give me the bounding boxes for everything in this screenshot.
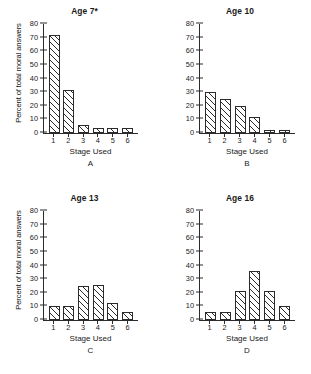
x-tick-label-2: 2 [219,136,230,145]
y-tick-label: 10 [30,300,38,311]
y-tick-label: 60 [30,45,38,56]
x-tick-label-6: 6 [122,136,133,145]
panel-d-x-tick-labels: 123456 [199,323,295,332]
panel-a-x-axis-title: Stage Used [43,147,138,156]
x-tick-label-6: 6 [122,323,133,332]
bar-slot [235,211,246,320]
panel-b-label: B [199,159,295,168]
panel-a: Age 7* Percent of total moral answers 01… [0,0,155,187]
x-tick-label-2: 2 [219,323,230,332]
panel-a-plot-area: 01020304050607080 [43,24,138,134]
bar-stage-2 [220,99,231,133]
y-tick-label: 70 [30,31,38,42]
x-tick-label-1: 1 [204,136,215,145]
bar-slot [49,211,60,320]
panel-d-x-axis-title: Stage Used [199,334,295,343]
panel-a-bars [44,24,138,133]
panel-d-label: D [199,346,295,355]
panel-d-bars [200,211,295,320]
x-tick-label-4: 4 [92,136,103,145]
y-tick-label: 70 [186,31,194,42]
panel-c-bars [44,211,138,320]
bar-stage-1 [49,35,60,133]
panel-c-x-axis-title: Stage Used [43,334,138,343]
bar-stage-1 [49,306,60,320]
panel-c: Age 13 Percent of total moral answers 01… [0,187,155,374]
y-tick-label: 80 [186,205,194,216]
x-tick-label-3: 3 [234,136,245,145]
x-tick-label-5: 5 [107,136,118,145]
y-tick-label: 30 [30,86,38,97]
bar-slot [122,211,133,320]
x-tick-label-1: 1 [48,136,59,145]
y-tick-label: 80 [30,205,38,216]
y-tick-label: 80 [186,18,194,29]
bar-slot [264,211,275,320]
bar-slot [205,24,216,133]
panel-a-x-tick-labels: 123456 [43,136,138,145]
bar-slot [107,211,118,320]
bar-slot [279,24,290,133]
y-tick-label: 70 [186,218,194,229]
panel-b-x-tick-labels: 123456 [199,136,295,145]
bar-stage-6 [279,130,290,133]
bar-slot [220,24,231,133]
y-tick-label: 10 [186,113,194,124]
y-tick-label: 70 [30,218,38,229]
bar-slot [249,211,260,320]
panel-b-title: Age 10 [155,6,311,16]
bar-stage-4 [249,117,260,134]
y-tick-label: 40 [186,72,194,83]
y-tick-label: 40 [30,72,38,83]
bar-slot [264,24,275,133]
panel-c-label: C [43,346,138,355]
bar-stage-1 [205,92,216,133]
panel-c-y-axis-title: Percent of total moral answers [14,195,26,325]
x-tick-label-6: 6 [279,136,290,145]
bar-stage-5 [107,303,118,320]
y-tick-label: 30 [186,86,194,97]
bar-stage-6 [279,306,290,320]
y-tick-label: 30 [186,273,194,284]
x-tick-label-2: 2 [63,323,74,332]
bar-stage-2 [220,312,231,320]
bar-slot [63,211,74,320]
y-tick-label: 50 [186,245,194,256]
x-tick-label-5: 5 [264,136,275,145]
bar-slot [63,24,74,133]
panel-d: Age 16 01020304050607080 123456 Stage Us… [155,187,311,374]
panel-b-x-axis-title: Stage Used [199,147,295,156]
x-tick-label-4: 4 [249,136,260,145]
bar-slot [205,211,216,320]
bar-stage-2 [63,90,74,133]
panel-b: Age 10 01020304050607080 123456 Stage Us… [155,0,311,187]
panel-d-plot-area: 01020304050607080 [199,211,295,321]
x-tick-label-4: 4 [92,323,103,332]
y-tick-label: 50 [186,58,194,69]
bar-stage-6 [122,312,133,320]
panel-a-y-axis-title: Percent of total moral answers [14,8,26,138]
y-tick-label: 0 [190,127,194,138]
y-tick-label: 30 [30,273,38,284]
x-tick-label-5: 5 [107,323,118,332]
bar-slot [93,211,104,320]
y-tick-label: 0 [34,314,38,325]
x-tick-label-1: 1 [48,323,59,332]
y-tick-label: 40 [186,259,194,270]
panel-a-label: A [43,159,138,168]
y-tick-label: 20 [30,286,38,297]
panel-b-plot-area: 01020304050607080 [199,24,295,134]
y-tick-label: 60 [186,232,194,243]
y-tick-label: 20 [186,99,194,110]
bar-slot [49,24,60,133]
bar-stage-3 [235,291,246,320]
bar-stage-1 [205,312,216,320]
bar-stage-5 [107,128,118,134]
figure-four-panel-bar-charts: Age 7* Percent of total moral answers 01… [0,0,311,374]
x-tick-label-3: 3 [78,136,89,145]
bar-stage-2 [63,306,74,320]
bar-stage-4 [93,128,104,134]
bar-stage-4 [93,285,104,320]
y-tick-label: 0 [190,314,194,325]
y-tick-label: 60 [186,45,194,56]
